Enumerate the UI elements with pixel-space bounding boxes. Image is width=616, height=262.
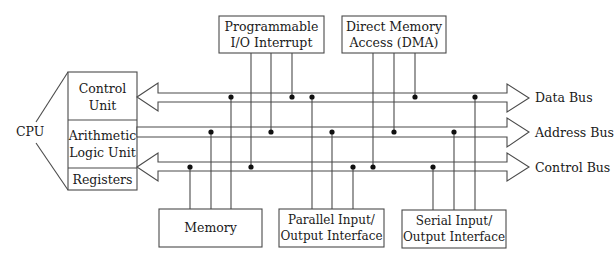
pio-connections: [251, 53, 292, 167]
serial-line1: Serial Input/: [416, 214, 493, 228]
alu-line1: Arithmetic: [68, 128, 136, 143]
parallel-io-interface: Parallel Input/ Output Interface: [279, 209, 384, 247]
dma-line2: Access (DMA): [349, 35, 439, 50]
alu-line2: Logic Unit: [69, 145, 135, 160]
serial-io-interface: Serial Input/ Output Interface: [402, 210, 506, 248]
serial-connections: [433, 97, 475, 210]
memory-connections: [190, 97, 231, 209]
memory-label: Memory: [184, 220, 238, 235]
dma-connections: [373, 53, 415, 167]
parallel-line1: Parallel Input/: [288, 213, 376, 227]
computer-bus-diagram: CPU Control Unit Arithmetic Logic Unit R…: [0, 0, 616, 262]
programmable-io-interrupt: Programmable I/O Interrupt: [219, 16, 324, 53]
cpu-label: CPU: [16, 124, 44, 139]
dma-controller: Direct Memory Access (DMA): [342, 16, 446, 53]
parallel-connections: [312, 97, 353, 209]
data-bus-arrow: [137, 83, 529, 112]
dma-line1: Direct Memory: [346, 19, 443, 34]
address-bus-label: Address Bus: [534, 125, 614, 140]
serial-line2: Output Interface: [403, 230, 505, 244]
control-unit-line1: Control: [79, 81, 127, 96]
control-bus-label: Control Bus: [535, 160, 610, 175]
control-unit-line2: Unit: [89, 98, 117, 113]
pio-line2: I/O Interrupt: [231, 35, 313, 50]
data-bus-label: Data Bus: [535, 90, 593, 105]
memory: Memory: [159, 209, 262, 247]
registers: Registers: [72, 172, 132, 187]
registers-label: Registers: [72, 172, 132, 187]
control-bus-arrow: [137, 153, 529, 181]
parallel-line2: Output Interface: [281, 229, 383, 243]
pio-line1: Programmable: [225, 19, 319, 34]
